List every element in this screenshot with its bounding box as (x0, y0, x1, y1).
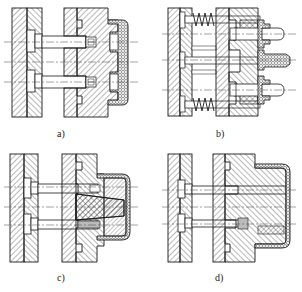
ejector-plate (24, 154, 38, 262)
caption-d: d) (215, 272, 223, 283)
support-plate (62, 154, 76, 262)
figure-a (4, 8, 138, 117)
figure-b (162, 8, 296, 116)
caption-c: c) (57, 272, 65, 283)
figure-d (162, 154, 296, 262)
ejector-plate (27, 8, 42, 117)
ejector-plate (180, 154, 192, 262)
clamp-plate (168, 154, 180, 262)
stripper-plate (216, 8, 229, 116)
clamp-plate (10, 154, 24, 262)
pin-head (27, 70, 35, 92)
caption-a: a) (57, 128, 65, 139)
clamp-plate (168, 8, 180, 116)
caption-b: b) (216, 128, 224, 139)
support-plate (64, 8, 77, 36)
pin-head (27, 30, 35, 52)
clamp-plate (12, 8, 27, 117)
support-plate (213, 154, 225, 262)
figure-c (4, 154, 138, 262)
diagram-canvas (0, 0, 302, 292)
